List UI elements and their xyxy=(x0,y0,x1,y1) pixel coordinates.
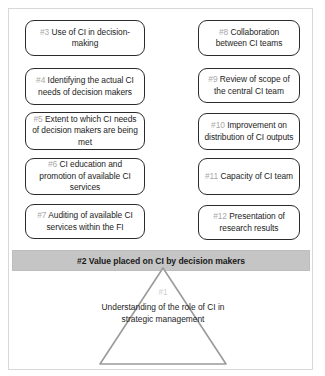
factor-box-10-text: #10 Improvement on distribution of CI ou… xyxy=(203,120,295,143)
factor-box-10: #10 Improvement on distribution of CI ou… xyxy=(198,113,300,150)
factor-box-10-number: #10 xyxy=(211,120,225,130)
factor-box-11-label: Capacity of CI team xyxy=(220,171,293,181)
factor-box-9-text: #9 Review of scope of the central CI tea… xyxy=(203,74,295,97)
factor-box-5-text: #5 Extent to which CI needs of decision … xyxy=(30,114,140,148)
factor-box-7-text: #7 Auditing of available CI services wit… xyxy=(30,210,140,233)
factor-box-7-label: Auditing of available CI services within… xyxy=(46,210,132,231)
foundation-label: Understanding of the role of CI in strat… xyxy=(96,302,230,325)
factor-box-12-label: Presentation of research results xyxy=(220,211,285,232)
factor-box-3: #3 Use of CI in decision-making xyxy=(25,20,145,56)
factor-box-8-number: #8 xyxy=(219,27,228,37)
factor-box-4-number: #4 xyxy=(36,75,45,85)
factor-box-8: #8 Collaboration between CI teams xyxy=(198,20,300,56)
factor-box-6-number: #6 xyxy=(48,159,57,169)
factor-box-5: #5 Extent to which CI needs of decision … xyxy=(25,112,145,150)
factor-box-4-text: #4 Identifying the actual CI needs of de… xyxy=(30,75,140,98)
factor-box-4: #4 Identifying the actual CI needs of de… xyxy=(25,68,145,105)
foundation-triangle: #1 Understanding of the role of CI in st… xyxy=(96,264,230,368)
factor-box-6: #6 CI education and promotion of availab… xyxy=(25,158,145,195)
foundation-number: #1 xyxy=(96,288,230,297)
factor-box-8-text: #8 Collaboration between CI teams xyxy=(203,27,295,50)
factor-box-11-number: #11 xyxy=(205,171,218,181)
factor-box-5-number: #5 xyxy=(34,114,43,124)
factor-box-12-number: #12 xyxy=(213,211,227,221)
factor-box-7-number: #7 xyxy=(37,210,46,220)
factor-box-11-text: #11 Capacity of CI team xyxy=(205,171,293,182)
factor-box-7: #7 Auditing of available CI services wit… xyxy=(25,204,145,239)
factor-box-3-number: #3 xyxy=(40,27,49,37)
factor-box-6-text: #6 CI education and promotion of availab… xyxy=(30,159,140,193)
factor-box-12: #12 Presentation of research results xyxy=(198,205,300,240)
factor-box-4-label: Identifying the actual CI needs of decis… xyxy=(38,75,134,96)
factor-box-11: #11 Capacity of CI team xyxy=(198,158,300,195)
factor-box-3-label: Use of CI in decision-making xyxy=(52,27,131,48)
factor-box-3-text: #3 Use of CI in decision-making xyxy=(30,27,140,50)
factor-box-9-number: #9 xyxy=(208,74,217,84)
factor-box-12-text: #12 Presentation of research results xyxy=(203,211,295,234)
factor-box-5-label: Extent to which CI needs of decision mak… xyxy=(32,114,138,147)
factor-box-9-label: Review of scope of the central CI team xyxy=(214,74,290,95)
diagram-root: #3 Use of CI in decision-making #4 Ident… xyxy=(0,0,325,376)
factor-box-9: #9 Review of scope of the central CI tea… xyxy=(198,68,300,103)
